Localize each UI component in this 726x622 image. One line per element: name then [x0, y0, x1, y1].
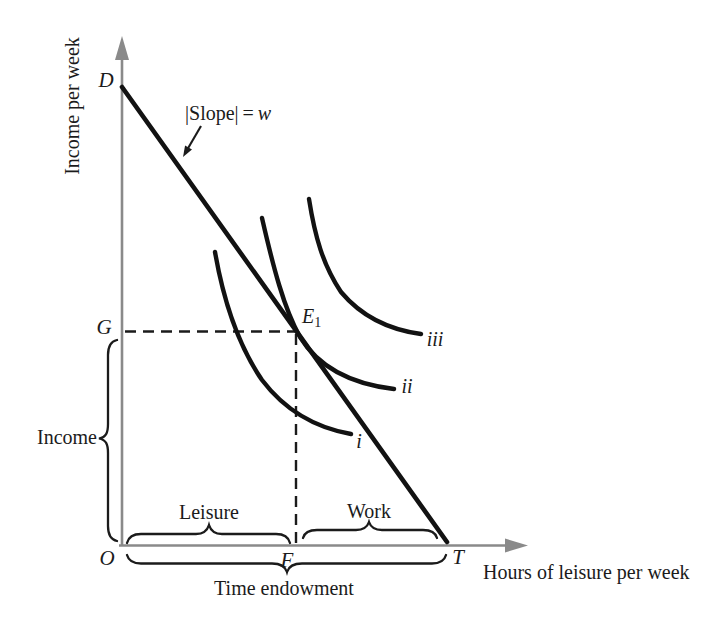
leisure-brace	[127, 525, 290, 543]
e1-base: E	[302, 305, 314, 327]
point-label-t: T	[452, 547, 464, 568]
budget-line	[122, 87, 447, 542]
slope-prefix: |Slope|	[185, 102, 239, 124]
indifference-curve-ii	[262, 218, 394, 389]
curve-label-i: i	[356, 431, 362, 451]
income-brace	[99, 340, 117, 541]
curve-label-iii: iii	[427, 329, 444, 349]
curve-label-ii: ii	[401, 376, 412, 396]
e1-subscript: 1	[314, 315, 321, 330]
work-label: Work	[347, 501, 391, 521]
slope-arrowhead-icon	[183, 146, 192, 158]
point-label-o: O	[99, 548, 114, 569]
y-axis-arrowhead-icon	[115, 36, 129, 60]
figure-canvas	[0, 0, 726, 622]
point-label-e1: E1	[302, 306, 321, 330]
point-label-d: D	[98, 70, 113, 91]
slope-arrow	[187, 126, 201, 150]
point-label-g: G	[96, 317, 111, 338]
income-label: Income	[37, 427, 97, 447]
y-axis-label: Income per week	[62, 37, 82, 175]
slope-variable: w	[258, 102, 271, 124]
leisure-label: Leisure	[179, 502, 239, 522]
slope-label: |Slope|=w	[185, 103, 271, 123]
indifference-curve-i	[215, 252, 351, 434]
point-label-f: F	[281, 550, 294, 571]
slope-equals: =	[243, 102, 254, 124]
x-axis-arrowhead-icon	[505, 539, 528, 553]
labor-leisure-diagram: Income per week Hours of leisure per wee…	[0, 0, 726, 622]
indifference-curve-iii	[309, 199, 421, 334]
time-endowment-label: Time endowment	[214, 578, 354, 598]
work-brace	[303, 522, 437, 538]
x-axis-label: Hours of leisure per week	[483, 562, 690, 582]
